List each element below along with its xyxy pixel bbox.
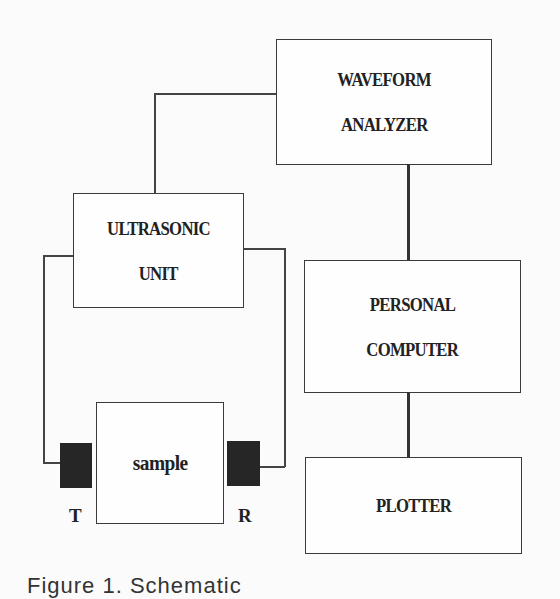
transmitter-transducer xyxy=(60,443,92,488)
wire-to-transmitter-horizontal-top xyxy=(43,255,73,257)
sample-label: sample xyxy=(133,452,188,474)
figure-caption: Figure 1. Schematic xyxy=(27,573,242,599)
personal-computer-label-line1: PERSONAL xyxy=(370,295,455,314)
wire-ultrasonic-to-analyzer-horizontal xyxy=(154,93,276,95)
waveform-analyzer-box: WAVEFORM ANALYZER xyxy=(276,39,492,165)
transmitter-label: T xyxy=(69,505,82,527)
wire-to-receiver-horizontal-top xyxy=(243,248,285,250)
plotter-label: PLOTTER xyxy=(376,496,451,515)
plotter-box: PLOTTER xyxy=(305,457,522,554)
wire-ultrasonic-to-analyzer-vertical xyxy=(154,94,156,194)
sample-box: sample xyxy=(96,402,224,524)
ultrasonic-unit-label-line2: UNIT xyxy=(139,264,178,283)
receiver-label: R xyxy=(238,505,252,527)
ultrasonic-unit-label-line1: ULTRASONIC xyxy=(107,219,210,238)
wire-to-receiver-vertical xyxy=(284,248,286,467)
ultrasonic-unit-box: ULTRASONIC UNIT xyxy=(73,193,244,308)
waveform-analyzer-label-line2: ANALYZER xyxy=(341,115,428,134)
receiver-transducer xyxy=(227,441,260,486)
wire-to-transmitter-horizontal-bottom xyxy=(43,462,60,464)
wire-to-receiver-horizontal-bottom xyxy=(260,466,285,468)
personal-computer-box: PERSONAL COMPUTER xyxy=(304,260,521,393)
waveform-analyzer-label-line1: WAVEFORM xyxy=(337,70,430,89)
personal-computer-label-line2: COMPUTER xyxy=(367,340,459,359)
wire-to-transmitter-vertical xyxy=(43,255,45,463)
connector-computer-to-plotter xyxy=(407,392,410,457)
connector-analyzer-to-computer xyxy=(407,164,410,260)
